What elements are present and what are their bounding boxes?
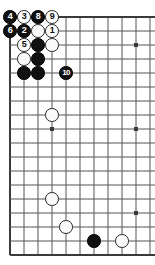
go-stone-black [17, 66, 31, 80]
star-point [50, 127, 54, 131]
star-point [134, 211, 138, 215]
go-stone-black [31, 66, 45, 80]
go-stone-black-4: 4 [3, 10, 17, 24]
go-stone-white-1: 1 [45, 24, 59, 38]
go-stone-white [17, 52, 31, 66]
go-stone-black-10: 10 [59, 66, 73, 80]
star-point [134, 43, 138, 47]
go-stone-white [45, 38, 59, 52]
go-stone-black [87, 234, 101, 248]
go-stone-black [31, 38, 45, 52]
star-point [134, 127, 138, 131]
go-stone-white [115, 234, 129, 248]
stone-move-number: 4 [8, 12, 13, 21]
stone-move-number: 2 [22, 26, 27, 35]
stone-move-number: 9 [50, 12, 55, 21]
go-stone-white-3: 3 [17, 10, 31, 24]
stone-move-number: 6 [8, 26, 13, 35]
go-stone-black [31, 52, 45, 66]
go-stone-white-5: 5 [17, 38, 31, 52]
stone-move-number: 8 [36, 12, 41, 21]
stone-move-number: 5 [22, 40, 27, 49]
stone-move-number: 1 [50, 26, 55, 35]
go-stone-white-9: 9 [45, 10, 59, 24]
go-stone-white [31, 24, 45, 38]
go-stone-black-2: 2 [17, 24, 31, 38]
go-stone-white [45, 192, 59, 206]
stone-move-number: 10 [62, 68, 69, 76]
stone-move-number: 3 [22, 12, 27, 21]
go-stone-black-6: 6 [3, 24, 17, 38]
go-stone-white [45, 108, 59, 122]
go-stone-black-8: 8 [31, 10, 45, 24]
go-stone-white [59, 220, 73, 234]
go-diagram: 4389621510 [0, 0, 155, 265]
